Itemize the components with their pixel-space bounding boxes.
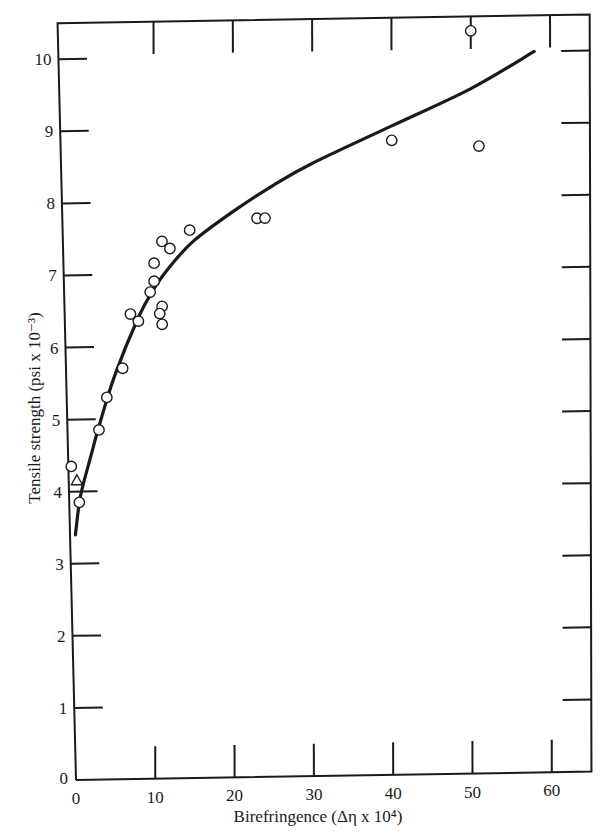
circle-marker [149, 258, 159, 268]
triangle-marker [71, 475, 82, 485]
y-tick-label: 4 [53, 483, 62, 502]
circle-marker [157, 319, 167, 329]
fit-curve-line [75, 51, 534, 534]
x-tick-label: 0 [72, 789, 81, 808]
y-tick-label: 5 [52, 411, 61, 430]
y-tick-label: 10 [34, 50, 51, 69]
circle-marker [165, 243, 175, 253]
x-tick-label: 10 [147, 788, 164, 807]
circle-marker [145, 287, 155, 297]
x-tick-label: 60 [543, 781, 560, 800]
y-axis-title: Tensile strength (psi x 10⁻³) [25, 312, 44, 503]
x-tick-label: 50 [464, 783, 481, 802]
y-tick-label: 6 [50, 339, 59, 358]
x-axis-title: Birefringence (Δη x 10⁴) [234, 807, 403, 826]
y-tick-label: 3 [55, 555, 64, 574]
y-tick-label: 7 [48, 266, 57, 285]
y-tick-label: 0 [60, 769, 69, 788]
y-tick-label: 1 [59, 699, 68, 718]
circle-marker [474, 141, 484, 151]
circle-marker [66, 461, 76, 471]
circle-marker [102, 392, 112, 402]
x-tick-label: 30 [305, 785, 322, 804]
y-tick-label: 9 [45, 122, 54, 141]
fit-curve [75, 51, 534, 534]
circle-marker [149, 276, 159, 286]
x-tick-label: 40 [385, 784, 402, 803]
axis-ticks [58, 15, 591, 779]
circle-marker [155, 308, 165, 318]
y-tick-label: 8 [46, 194, 55, 213]
circle-marker [184, 225, 194, 235]
circle-marker [466, 26, 476, 36]
circle-marker [260, 213, 270, 223]
chart: 0102030405060012345678910 Birefringence … [0, 0, 604, 840]
plot-frame [58, 15, 592, 781]
circle-marker [387, 135, 397, 145]
y-tick-label: 2 [57, 627, 66, 646]
circle-marker [133, 316, 143, 326]
tick-labels: 0102030405060012345678910 [34, 50, 560, 808]
circle-marker [94, 425, 104, 435]
x-tick-label: 20 [226, 786, 243, 805]
circle-marker [74, 497, 84, 507]
data-points [66, 26, 484, 508]
circle-marker [117, 363, 127, 373]
